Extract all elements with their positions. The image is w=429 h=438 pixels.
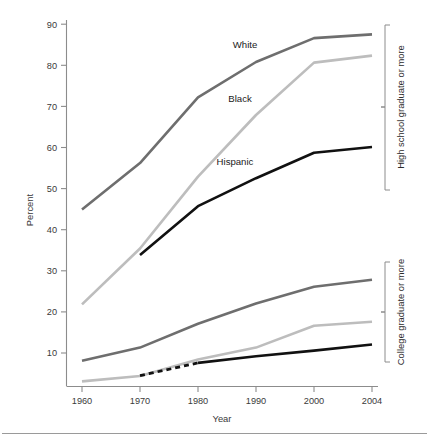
y-tick-label-80: 80: [47, 61, 57, 71]
y-tick-label-10: 10: [47, 348, 57, 358]
y-tick-label-30: 30: [47, 266, 57, 276]
bracket-high-school: High school graduate or more: [381, 25, 406, 190]
bracket-high-school-line: [381, 25, 390, 190]
x-axis: 1960 1970 1980 1990 2000 2004 Year: [67, 387, 383, 425]
series-annotations: White Black Hispanic: [217, 39, 258, 167]
y-axis: 90 80 70 60 50 40 30 20 10 Percent: [24, 20, 67, 386]
y-ticks: [61, 24, 67, 353]
bracket-college-label: College graduate or more: [395, 259, 406, 365]
x-axis-title: Year: [213, 413, 232, 424]
x-ticks: [82, 387, 372, 393]
y-tick-label-40: 40: [47, 225, 57, 235]
x-tick-label-2000: 2000: [304, 396, 324, 406]
bracket-high-school-label: High school graduate or more: [395, 45, 406, 169]
y-tick-label-60: 60: [47, 143, 57, 153]
bracket-college: College graduate or more: [381, 259, 406, 365]
x-tick-label-1970: 1970: [130, 396, 150, 406]
y-tick-label-70: 70: [47, 102, 57, 112]
y-tick-label-50: 50: [47, 184, 57, 194]
bracket-college-line: [381, 262, 390, 362]
series-label-black: Black: [228, 93, 252, 104]
y-axis-title: Percent: [24, 193, 35, 226]
series-group-college: [82, 280, 372, 382]
line-chart-svg: 90 80 70 60 50 40 30 20 10 Percent: [0, 0, 429, 438]
x-tick-label-1990: 1990: [246, 396, 266, 406]
chart-figure: 90 80 70 60 50 40 30 20 10 Percent: [0, 0, 429, 438]
series-line-high-school-black: [82, 56, 372, 305]
x-tick-label-2004: 2004: [362, 396, 382, 406]
series-line-high-school-hispanic: [140, 147, 372, 255]
series-label-white: White: [233, 39, 258, 50]
y-tick-label-20: 20: [47, 307, 57, 317]
y-tick-label-90: 90: [47, 20, 57, 30]
series-label-hispanic: Hispanic: [217, 156, 254, 167]
x-tick-labels: 1960 1970 1980 1990 2000 2004: [72, 396, 382, 406]
x-tick-label-1960: 1960: [72, 396, 92, 406]
x-tick-label-1980: 1980: [188, 396, 208, 406]
y-tick-labels: 90 80 70 60 50 40 30 20 10: [47, 20, 57, 359]
series-group-high-school: [82, 34, 372, 304]
